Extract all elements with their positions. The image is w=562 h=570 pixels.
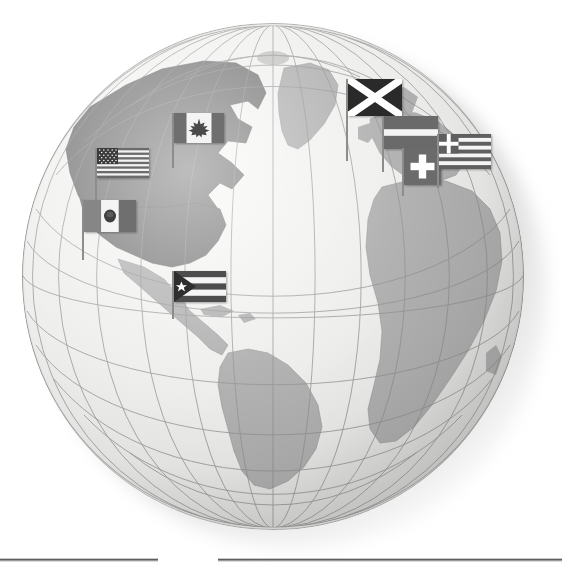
flag-cloth-puerto-rico <box>174 271 226 302</box>
flag-cloth-united-states <box>97 148 149 178</box>
divider-rule-left <box>0 558 158 562</box>
canada-flag-svg <box>174 113 224 143</box>
flag-cloth-greece <box>439 134 491 169</box>
rule-line <box>0 561 158 562</box>
scotland-flag-svg <box>348 79 402 116</box>
switzerland-flag-svg <box>404 148 441 185</box>
north-pole-marker <box>257 51 289 65</box>
flag-cloth-canada <box>174 113 224 143</box>
flag-cloth-mexico <box>84 200 136 232</box>
mexico-flag-svg <box>84 200 136 232</box>
globe-illustration <box>0 0 562 570</box>
flag-cloth-switzerland <box>404 148 441 185</box>
latvia-flag-svg <box>384 116 438 149</box>
flag-cloth-latvia <box>384 116 438 149</box>
puerto-rico-flag-svg <box>174 271 226 302</box>
globe-container <box>22 23 524 530</box>
globe-map-svg <box>22 23 524 530</box>
globe-sphere <box>22 23 524 530</box>
rule-line <box>218 561 562 562</box>
divider-rule-right <box>218 558 562 562</box>
flag-cloth-scotland <box>348 79 402 116</box>
greece-flag-svg <box>439 134 491 169</box>
united-states-flag-svg <box>97 148 149 178</box>
